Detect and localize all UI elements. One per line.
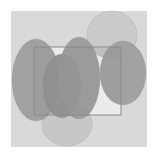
inner-rectangle-outline bbox=[34, 47, 121, 115]
diagram-canvas bbox=[0, 0, 163, 163]
